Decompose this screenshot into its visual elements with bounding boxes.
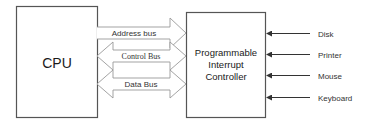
data-bus: Data Bus [97,70,186,98]
control-bus: Control Bus [97,42,186,70]
device-keyboard: Keyboard [267,94,352,103]
device-mouse: Mouse [267,72,343,81]
pic-label-line-2: Interrupt [208,59,244,70]
mouse-label: Mouse [318,72,343,81]
pic-label-line-1: Programmable [195,47,257,58]
pic-node: Programmable Interrupt Controller [187,13,266,118]
data-bus-label: Data Bus [125,80,158,89]
keyboard-label: Keyboard [318,94,352,103]
cpu-node: CPU [17,7,98,118]
diagram-canvas: CPU Programmable Interrupt Controller Ad… [0,0,368,122]
pic-label-line-3: Controller [205,71,246,82]
control-bus-label: Control Bus [122,52,161,61]
address-bus-label: Address bus [112,29,156,38]
cpu-label: CPU [42,55,72,71]
device-disk: Disk [267,30,335,39]
address-bus: Address bus [97,18,186,48]
printer-label: Printer [318,51,342,60]
disk-label: Disk [318,30,335,39]
device-printer: Printer [267,51,342,60]
